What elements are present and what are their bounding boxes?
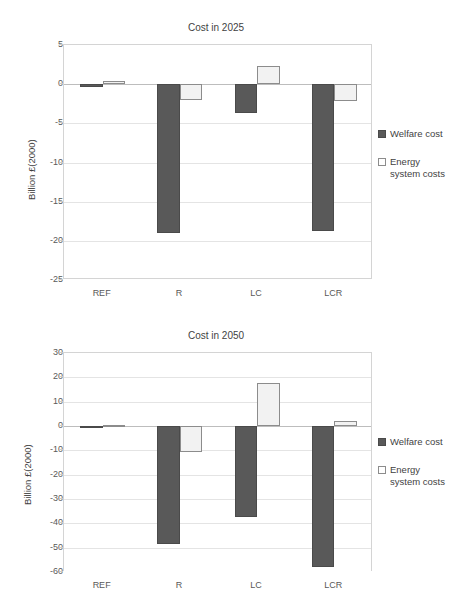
x-tick-label-r: R — [176, 580, 183, 590]
bar-ref-welfare-cost — [80, 84, 102, 86]
y-tick-label: -10 — [0, 157, 67, 167]
x-tick-label-lc: LC — [250, 288, 262, 298]
y-tick-label: -20 — [0, 235, 67, 245]
bar-r-energy-system-costs — [180, 426, 202, 452]
gridline — [64, 402, 371, 403]
bar-lcr-welfare-cost — [312, 84, 334, 231]
bar-lc-welfare-cost — [235, 84, 257, 113]
y-tick-label: -60 — [0, 566, 67, 576]
bar-r-energy-system-costs — [180, 84, 202, 100]
y-tick-label: 20 — [0, 371, 67, 381]
y-axis-title-2025: Billion £(2000) — [26, 139, 37, 200]
bar-lc-energy-system-costs — [257, 383, 279, 426]
chart-title-2025: Cost in 2025 — [60, 22, 372, 33]
chart-cost-in-2025: Cost in 2025 Billion £(2000) 50-5-10-15-… — [0, 0, 476, 310]
y-tick-label: -20 — [0, 469, 67, 479]
x-tick-label-lcr: LCR — [324, 580, 342, 590]
y-tick-label: 30 — [0, 347, 67, 357]
bar-lcr-energy-system-costs — [334, 421, 356, 426]
bar-lcr-energy-system-costs — [334, 84, 356, 101]
y-tick-label: 0 — [0, 78, 67, 88]
legend-2050: Welfare cost Energy system costs — [378, 436, 476, 504]
legend-label-welfare-cost: Welfare cost — [390, 128, 443, 140]
legend-label-energy-system-costs: Energy system costs — [390, 156, 445, 180]
x-tick-label-ref: REF — [93, 580, 111, 590]
y-tick-mark — [59, 279, 63, 280]
x-tick-label-lcr: LCR — [324, 288, 342, 298]
gridline — [64, 377, 371, 378]
y-tick-label: -50 — [0, 542, 67, 552]
x-tick-label-r: R — [176, 288, 183, 298]
bar-r-welfare-cost — [157, 84, 179, 233]
legend-swatch-welfare-icon — [378, 130, 386, 138]
chart-cost-in-2050: Cost in 2050 Billion £(2000) 3020100-10-… — [0, 310, 476, 571]
y-tick-label: 0 — [0, 420, 67, 430]
gridline — [64, 241, 371, 242]
x-tick-label-lc: LC — [250, 580, 262, 590]
bar-ref-energy-system-costs — [103, 81, 125, 84]
y-tick-mark — [59, 571, 63, 572]
bar-r-welfare-cost — [157, 426, 179, 544]
x-tick-label-ref: REF — [93, 288, 111, 298]
legend-item-energy-system-costs: Energy system costs — [378, 156, 476, 180]
legend-label-welfare-cost: Welfare cost — [390, 436, 443, 448]
bar-ref-energy-system-costs — [103, 425, 125, 427]
legend-swatch-welfare-icon — [378, 438, 386, 446]
legend-2025: Welfare cost Energy system costs — [378, 128, 476, 196]
bar-lcr-welfare-cost — [312, 426, 334, 567]
plot-area-2025 — [63, 44, 372, 279]
y-tick-label: 5 — [0, 39, 67, 49]
plot-area-2050 — [63, 352, 372, 571]
legend-swatch-energy-icon — [378, 466, 386, 474]
legend-item-welfare-cost: Welfare cost — [378, 128, 476, 140]
y-tick-label: -40 — [0, 517, 67, 527]
y-tick-label: -10 — [0, 444, 67, 454]
y-tick-label: -30 — [0, 493, 67, 503]
bar-ref-welfare-cost — [80, 426, 102, 428]
bar-lc-energy-system-costs — [257, 66, 279, 84]
y-tick-label: -25 — [0, 274, 67, 284]
legend-swatch-energy-icon — [378, 158, 386, 166]
y-tick-label: -5 — [0, 117, 67, 127]
bar-lc-welfare-cost — [235, 426, 257, 517]
legend-item-welfare-cost: Welfare cost — [378, 436, 476, 448]
y-tick-label: -15 — [0, 196, 67, 206]
chart-title-2050: Cost in 2050 — [60, 330, 372, 341]
legend-item-energy-system-costs: Energy system costs — [378, 464, 476, 488]
legend-label-energy-system-costs: Energy system costs — [390, 464, 445, 488]
y-tick-label: 10 — [0, 396, 67, 406]
